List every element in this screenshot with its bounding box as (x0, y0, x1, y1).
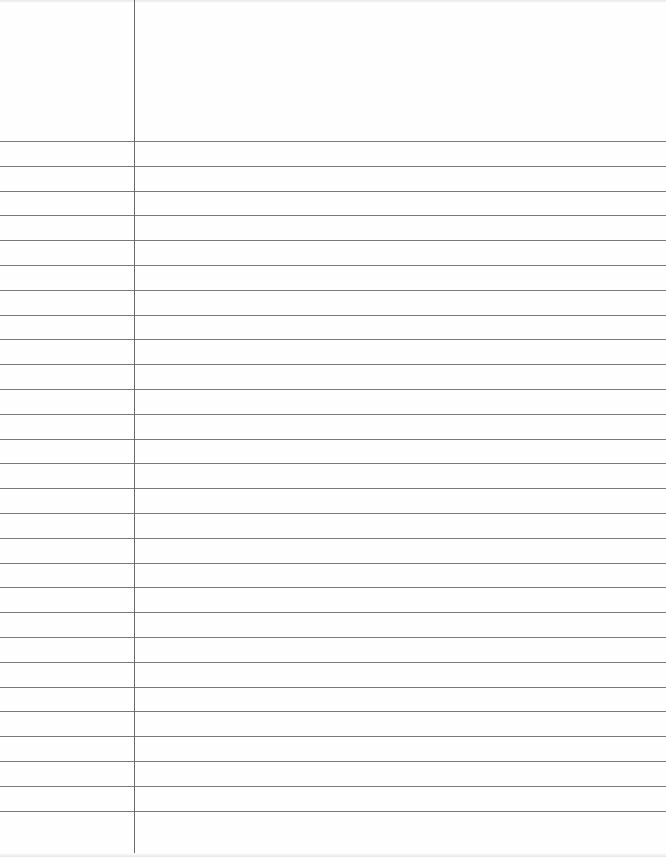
paper-top-edge (0, 0, 666, 3)
ruled-line (0, 563, 666, 564)
ruled-line (0, 811, 666, 812)
ruled-line (0, 488, 666, 489)
margin-line (134, 0, 135, 857)
ruled-line (0, 240, 666, 241)
ruled-line (0, 612, 666, 613)
ruled-line (0, 166, 666, 167)
lined-paper (0, 0, 666, 857)
ruled-line (0, 711, 666, 712)
ruled-line (0, 463, 666, 464)
ruled-line (0, 364, 666, 365)
ruled-line (0, 265, 666, 266)
ruled-line (0, 439, 666, 440)
ruled-line (0, 637, 666, 638)
ruled-line (0, 662, 666, 663)
ruled-line (0, 389, 666, 390)
paper-bottom-edge (0, 853, 666, 857)
ruled-line (0, 315, 666, 316)
ruled-line (0, 761, 666, 762)
ruled-line (0, 786, 666, 787)
ruled-line (0, 141, 666, 142)
ruled-line (0, 290, 666, 291)
ruled-line (0, 215, 666, 216)
ruled-line (0, 339, 666, 340)
ruled-line (0, 414, 666, 415)
ruled-line (0, 513, 666, 514)
ruled-line (0, 191, 666, 192)
ruled-line (0, 687, 666, 688)
ruled-line (0, 587, 666, 588)
ruled-line (0, 538, 666, 539)
ruled-line (0, 736, 666, 737)
